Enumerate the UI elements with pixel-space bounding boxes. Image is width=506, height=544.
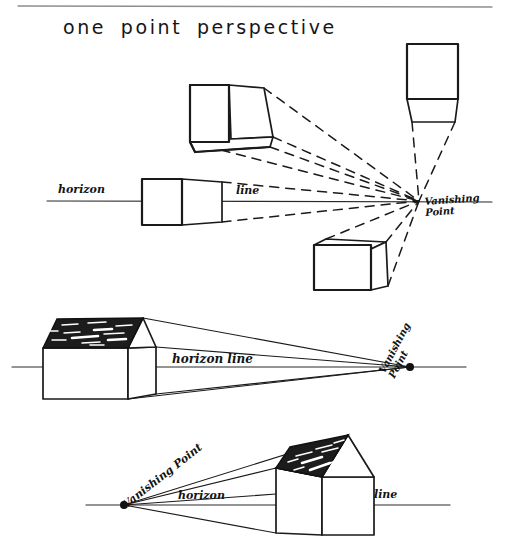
convergence-lines-2 (128, 318, 410, 399)
convergence-line (222, 201, 419, 222)
box-front-face (314, 245, 371, 290)
box-above-right (407, 44, 458, 122)
horizon-line-label-2: horizon line (172, 352, 253, 366)
convergence-line (156, 367, 410, 394)
box-above-left (190, 85, 273, 152)
box-bottom-face (407, 99, 458, 122)
convergence-line (419, 122, 455, 201)
vanishing-point-label-1: Vanishing Point (424, 192, 481, 218)
diagram-cubes-around-vanishing-point (47, 44, 492, 290)
convergence-line (270, 147, 419, 201)
box-below-right (314, 239, 388, 290)
line-label-1: line (236, 184, 259, 197)
top-rule (18, 6, 492, 7)
house-side-wall (276, 468, 322, 535)
vanishing-point-dot-2 (406, 363, 414, 371)
horizon-label-3: horizon (178, 489, 225, 502)
convergence-line (412, 122, 419, 201)
horizon-label-1: horizon (58, 183, 105, 196)
box-front-face (190, 85, 229, 142)
box-side-face (229, 85, 273, 139)
line-label-3: line (374, 488, 397, 501)
perspective-worksheet-page: one point perspective horizon line Vanis… (0, 0, 506, 544)
box-on-horizon (142, 179, 222, 225)
box-front-face (142, 179, 182, 225)
house-front-wall (322, 477, 374, 535)
convergence-line (124, 505, 276, 533)
house-side-wall (128, 347, 156, 399)
convergence-line (388, 201, 419, 286)
box-side-face (182, 179, 222, 225)
drawing-canvas (0, 0, 506, 544)
box-side-face (371, 242, 388, 290)
convergence-line (264, 88, 419, 201)
page-title: one point perspective (63, 16, 337, 38)
house-front-wall (43, 348, 128, 399)
convergence-line (273, 137, 419, 201)
box-front-face (407, 44, 458, 99)
